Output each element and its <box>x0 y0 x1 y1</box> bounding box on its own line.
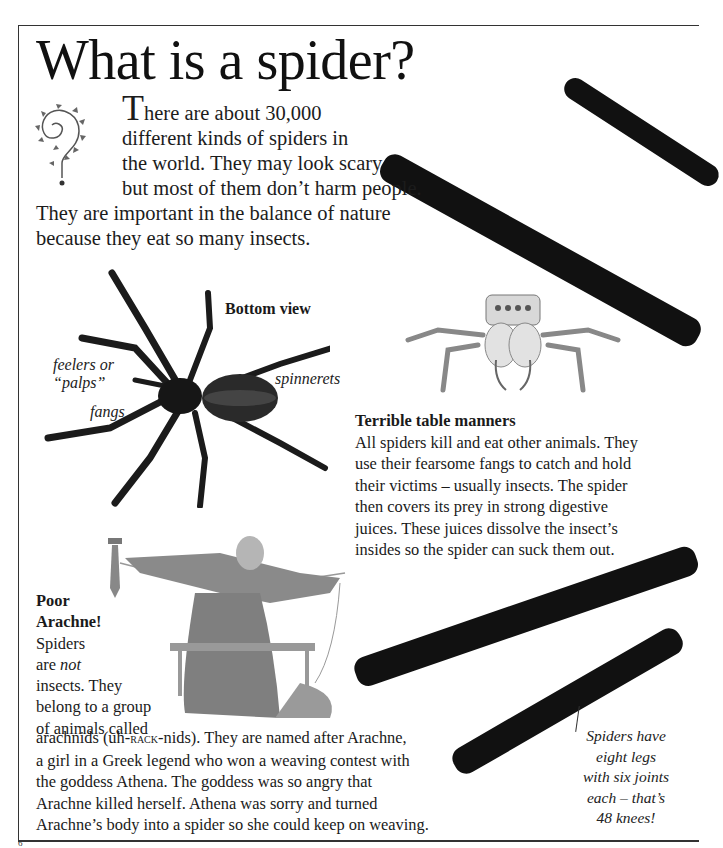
jumping-spider-front-illustration <box>398 290 628 400</box>
intro-line: They are important in the balance of nat… <box>36 201 381 226</box>
arachne-line: belong to a group <box>36 696 151 717</box>
spinnerets-label: spinnerets <box>275 370 340 388</box>
page-title: What is a spider? <box>36 28 415 92</box>
arachne-text-fragment: arachnids (uh- <box>36 728 130 747</box>
arachne-line: Spiders <box>36 633 151 654</box>
fact-line: eight legs <box>568 747 684 768</box>
arachne-line: Arachne’s body into a spider so she coul… <box>36 814 429 836</box>
bottom-view-caption: Bottom view <box>225 300 311 318</box>
arachne-text-fragment: are <box>36 655 60 674</box>
arachne-continued: arachnids (uh-rack-nids). They are named… <box>36 727 429 836</box>
table-manners-line: use their fearsome fangs to catch and ho… <box>355 453 690 475</box>
intro-line: because they eat so many insects. <box>36 226 381 251</box>
palps-label-line1: feelers or <box>53 356 114 374</box>
arachne-line: Arachne killed herself. Athena was sorry… <box>36 793 429 815</box>
table-manners-heading: Terrible table manners <box>355 410 690 432</box>
table-manners-line: then covers its prey in strong digestive <box>355 496 690 518</box>
drop-cap: T <box>122 88 144 128</box>
page-number: 6 <box>18 838 23 848</box>
arachne-line: insects. They <box>36 675 151 696</box>
intro-paragraph: There are about 30,000 different kinds o… <box>36 96 381 251</box>
intro-line: but most of them don’t harm people. <box>36 176 381 201</box>
fact-line: each – that’s <box>568 788 684 809</box>
intro-line: different kinds of spiders in <box>36 126 381 151</box>
arachne-line: the goddess Athena. The goddess was so a… <box>36 771 429 793</box>
table-manners-line: juices. These juices dissolve the insect… <box>355 518 690 540</box>
fact-line: 48 knees! <box>568 808 684 829</box>
intro-line: here are about 30,000 <box>144 102 322 124</box>
arachne-emphasis: not <box>60 655 81 674</box>
table-manners-line: insides so the spider can suck them out. <box>355 539 690 561</box>
knees-fact-box: Spiders have eight legs with six joints … <box>568 726 684 829</box>
table-manners-section: Terrible table manners All spiders kill … <box>355 410 690 561</box>
arachne-line: a girl in a Greek legend who won a weavi… <box>36 750 429 772</box>
intro-line: the world. They may look scary <box>36 151 381 176</box>
arachne-section: Poor Arachne! Spiders are not insects. T… <box>36 590 151 739</box>
pronunciation-stress: rack <box>130 731 158 746</box>
palps-label-line2: “palps” <box>53 374 114 392</box>
arachne-line: arachnids (uh-rack-nids). They are named… <box>36 727 429 750</box>
arachne-heading-line: Arachne! <box>36 611 151 632</box>
arachne-line: are not <box>36 654 151 675</box>
palps-label: feelers or “palps” <box>53 356 114 392</box>
table-manners-line: their victims – usually insects. The spi… <box>355 475 690 497</box>
arachne-heading-line: Poor <box>36 590 151 611</box>
fangs-label: fangs <box>90 403 125 421</box>
fact-line: with six joints <box>568 767 684 788</box>
arachne-text-fragment: -nids). They are named after Arachne, <box>158 728 407 747</box>
table-manners-line: All spiders kill and eat other animals. … <box>355 432 690 454</box>
fact-line: Spiders have <box>568 726 684 747</box>
